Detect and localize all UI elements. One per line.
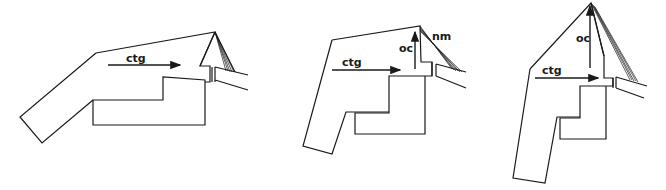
panel-1-joint-outline xyxy=(212,67,248,90)
panel-2-ctg-label: ctg xyxy=(342,56,362,69)
panel-3: oc ctg xyxy=(513,3,647,183)
panel-1-body-outline xyxy=(93,32,215,125)
panel-3-joint-outline xyxy=(613,77,647,98)
panel-2-oc-label: oc xyxy=(399,42,413,55)
panel-2-body-outline xyxy=(332,26,432,134)
panel-2-nm-label: nm xyxy=(432,30,451,43)
panel-3-oc-label: oc xyxy=(576,32,590,45)
diagram-canvas: ctg oc nm ctg xyxy=(0,0,666,190)
panel-2: oc nm ctg xyxy=(303,26,466,154)
panel-3-ctg-label: ctg xyxy=(542,64,562,77)
panel-1-hatch xyxy=(215,32,234,72)
panel-3-arm-outline xyxy=(513,69,580,183)
panel-1-ctg-label: ctg xyxy=(126,52,146,65)
panel-1: ctg xyxy=(20,32,248,143)
panel-2-joint-outline xyxy=(432,62,466,88)
panel-1-arm-outline xyxy=(20,53,96,143)
panel-3-hatch xyxy=(591,3,638,82)
